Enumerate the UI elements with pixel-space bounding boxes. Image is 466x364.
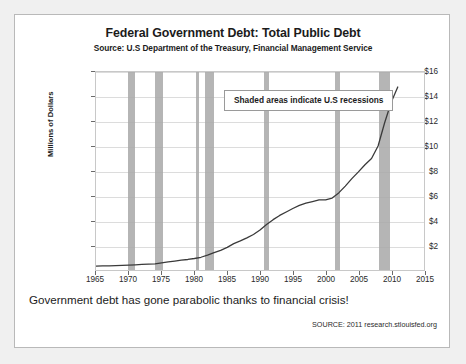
- x-tick-mark: [194, 271, 195, 275]
- x-tick-label: 1990: [251, 275, 269, 284]
- x-tick-mark: [326, 271, 327, 275]
- x-tick-mark: [260, 271, 261, 275]
- y-axis-label: Millions of Dollars: [46, 92, 55, 157]
- x-tick-label: 2015: [416, 275, 434, 284]
- chart-caption: Government debt has gone parabolic thank…: [29, 293, 349, 306]
- x-tick-mark: [359, 271, 360, 275]
- source-note: SOURCE: 2011 research.stlouisfed.org: [312, 320, 437, 329]
- x-tick-mark: [392, 271, 393, 275]
- x-tick-label: 1975: [152, 275, 170, 284]
- x-tick-mark: [227, 271, 228, 275]
- x-tick-label: 2000: [317, 275, 335, 284]
- legend-note: Shaded areas indicate U.S recessions: [224, 90, 393, 111]
- chart-subtitle: Source: U.S Department of the Treasury, …: [15, 43, 451, 53]
- x-tick-label: 2005: [350, 275, 368, 284]
- chart-area: Millions of Dollars $2$4$6$8$10$12$14$16…: [48, 61, 438, 287]
- x-tick-mark: [425, 271, 426, 275]
- x-tick-label: 1985: [218, 275, 236, 284]
- page-title: Federal Government Debt: Total Public De…: [15, 26, 451, 40]
- x-tick-label: 1995: [284, 275, 302, 284]
- x-tick-label: 2010: [383, 275, 401, 284]
- x-tick-mark: [161, 271, 162, 275]
- chart-card: Federal Government Debt: Total Public De…: [14, 14, 450, 348]
- x-tick-label: 1980: [185, 275, 203, 284]
- x-tick-mark: [128, 271, 129, 275]
- x-tick-label: 1970: [119, 275, 137, 284]
- x-tick-label: 1965: [86, 275, 104, 284]
- x-tick-mark: [95, 271, 96, 275]
- plot-region: Shaded areas indicate U.S recessions: [95, 71, 425, 271]
- x-tick-mark: [293, 271, 294, 275]
